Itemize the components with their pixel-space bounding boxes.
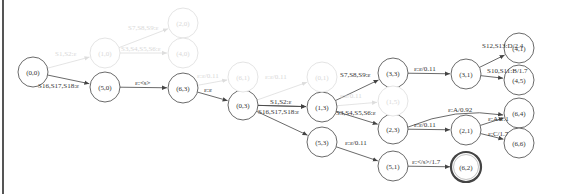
node-label: (4,5) (512, 77, 526, 85)
diagram-canvas: (0,0)(5,0)(6,3)(0,3)(1,3)(3,3)(3,1)(4,1)… (0, 0, 565, 194)
fst-lattice-graph: (0,0)(5,0)(6,3)(0,3)(1,3)(3,3)(3,1)(4,1)… (0, 0, 565, 194)
edge-label: ε:ε/0.11 (414, 65, 436, 73)
edge-label: ε:ε/0.11 (345, 139, 367, 147)
state-node: (0,1) (307, 62, 337, 92)
node-label: (6,1) (236, 74, 250, 82)
node-label: (2,1) (459, 127, 473, 135)
state-node: (6,3) (168, 73, 198, 103)
edge (408, 129, 450, 130)
node-label: (2,0) (176, 20, 190, 28)
edge-label: ε:<s> (135, 79, 151, 87)
edge-label: S12,S13:D/2.4 (482, 42, 524, 50)
node-label: (5,1) (386, 163, 400, 171)
edge (481, 76, 503, 79)
state-node: (1,0) (90, 38, 120, 68)
state-node: (2,1) (451, 115, 481, 145)
edge-label: ε:ε/0.11 (414, 121, 436, 129)
state-node: (6,4) (504, 98, 534, 128)
state-node: (3,3) (378, 58, 408, 88)
edge-label: ε:ε/0.11 (265, 73, 287, 81)
state-node: (2,3) (378, 114, 408, 144)
node-label: (3,1) (459, 71, 473, 79)
node-label: (4,0) (176, 50, 190, 58)
state-node: (4,0) (168, 38, 198, 68)
node-label: (0,0) (26, 69, 40, 77)
node-label: (6,2) (459, 164, 473, 172)
node-label: (1,0) (98, 50, 112, 58)
edge-label: S3,S4,S5,S6:ε (336, 109, 376, 117)
node-label: (0,3) (236, 102, 250, 110)
edge (197, 92, 227, 101)
edge-label: S1,S2:ε (55, 50, 76, 58)
edge-label: S3,S4,S5,S6:ε (121, 45, 161, 53)
edge-label: ε:</s>/1.7 (412, 158, 441, 166)
node-label: (2,3) (386, 126, 400, 134)
edge (408, 166, 450, 167)
nodes-layer: (0,0)(5,0)(6,3)(0,3)(1,3)(3,3)(3,1)(4,1)… (18, 8, 534, 182)
edge (408, 73, 450, 74)
final-state-node: (6,2) (451, 152, 481, 182)
state-node: (6,6) (504, 128, 534, 158)
edge-label: S16,S17,S18:ε (38, 82, 79, 90)
state-node: (5,1) (378, 151, 408, 181)
node-label: (3,3) (386, 70, 400, 78)
state-node: (5,3) (307, 127, 337, 157)
node-label: (1,5) (386, 98, 400, 106)
edge-label: ε:ε (204, 86, 212, 94)
node-label: (5,0) (98, 84, 112, 92)
state-node: (5,0) (90, 72, 120, 102)
state-node: (0,3) (228, 90, 258, 120)
edge-label: ε:C/1.7 (488, 130, 509, 138)
node-label: (6,4) (512, 110, 526, 118)
panel-border (2, 0, 4, 194)
state-node: (2,0) (168, 8, 198, 38)
edge-label: ε:A/1.1 (488, 115, 509, 123)
edge-label: S1,S2:ε (270, 98, 291, 106)
node-label: (0,1) (315, 74, 329, 82)
node-label: (6,3) (176, 85, 190, 93)
node-label: (1,3) (315, 104, 329, 112)
edge-label: S10,S11:B/1.7 (487, 67, 528, 75)
edge (336, 147, 378, 161)
state-node: (3,1) (451, 59, 481, 89)
edge-label: ε:ε/0.11 (340, 92, 362, 100)
edge-label: S7,S8,S9:ε (340, 71, 371, 79)
edge (48, 57, 90, 68)
node-label: (6,6) (512, 140, 526, 148)
edge (337, 102, 377, 105)
edge (198, 80, 228, 85)
node-label: (5,3) (315, 139, 329, 147)
edge (479, 55, 504, 67)
edge-label: S16,S17,S18:ε (258, 108, 299, 116)
edge-label: S7,S8,S9:ε (128, 24, 159, 32)
state-node: (1,3) (307, 92, 337, 122)
edge-label: ε:A/0.92 (448, 106, 473, 114)
state-node: (6,1) (228, 62, 258, 92)
edge-label: ε:ε/0.11 (197, 72, 219, 80)
edge (120, 87, 167, 88)
state-node: (1,5) (378, 86, 408, 116)
